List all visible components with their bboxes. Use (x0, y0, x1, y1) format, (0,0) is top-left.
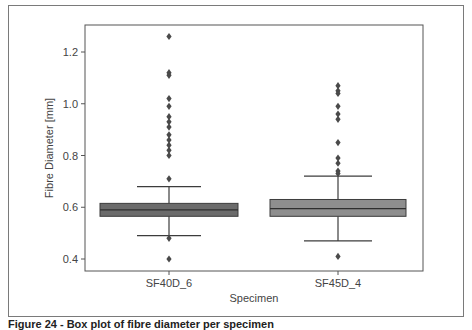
x-tick-label: SF40D_6 (146, 277, 192, 289)
x-tick-label: SF45D_4 (315, 277, 361, 289)
box-plot-chart: 0.40.60.81.01.2 SF40D_6SF45D_4 Fibre Dia… (0, 0, 472, 318)
y-axis: 0.40.60.81.01.2 (63, 46, 85, 265)
y-tick-label: 1.2 (63, 46, 78, 58)
figure-caption: Figure 24 - Box plot of fibre diameter p… (8, 318, 274, 330)
y-tick-label: 1.0 (63, 98, 78, 110)
y-axis-label: Fibre Diameter [mm] (43, 98, 55, 198)
plot-area (85, 25, 423, 271)
y-tick-label: 0.4 (63, 253, 78, 265)
x-axis-label: Specimen (230, 292, 279, 304)
plot-border (85, 25, 423, 271)
y-tick-label: 0.8 (63, 150, 78, 162)
x-axis: SF40D_6SF45D_4 (146, 271, 361, 289)
y-tick-label: 0.6 (63, 201, 78, 213)
